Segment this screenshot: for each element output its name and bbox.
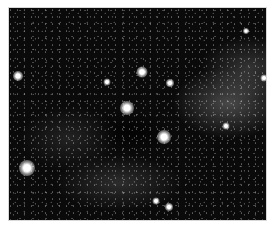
star [223, 123, 230, 130]
star [120, 101, 134, 115]
star [157, 130, 171, 144]
star [153, 198, 160, 205]
star [243, 28, 249, 34]
star [165, 203, 173, 211]
star [137, 67, 148, 78]
star [166, 79, 174, 87]
faint-star-dust [9, 8, 266, 220]
star [19, 160, 35, 176]
star-field-photo [8, 7, 267, 221]
star [104, 79, 111, 86]
star [13, 71, 23, 81]
star [261, 75, 268, 82]
